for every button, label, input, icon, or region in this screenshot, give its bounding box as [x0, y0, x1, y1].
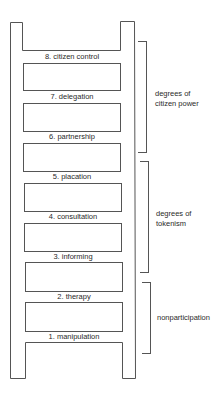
- group-label-citizen-power-line2: citizen power: [155, 99, 199, 109]
- rung-label-1: 1. manipulation: [24, 332, 124, 341]
- rung-label-6: 6. partnership: [22, 132, 122, 141]
- group-label-nonparticipation-line1: nonparticipation: [157, 313, 210, 323]
- rung-label-3: 3. informing: [23, 252, 123, 261]
- rung-label-2: 2. therapy: [24, 292, 124, 301]
- group-label-tokenism-line2: tokenism: [156, 219, 191, 229]
- bracket-nonparticipation: [142, 282, 151, 354]
- bracket-citizen-power: [138, 41, 147, 153]
- rung-label-7: 7. delegation: [22, 92, 122, 101]
- rung-label-5: 5. placation: [22, 172, 122, 181]
- group-label-citizen-power-line1: degrees of: [155, 89, 199, 99]
- group-label-tokenism-line1: degrees of: [156, 209, 191, 219]
- bracket-tokenism: [140, 161, 149, 273]
- group-label-citizen-power: degrees of citizen power: [155, 89, 199, 109]
- group-label-nonparticipation: nonparticipation: [157, 313, 210, 323]
- rung-label-4: 4. consultation: [23, 212, 123, 221]
- group-label-tokenism: degrees of tokenism: [156, 209, 191, 229]
- rung-label-8: 8. citizen control: [22, 52, 122, 61]
